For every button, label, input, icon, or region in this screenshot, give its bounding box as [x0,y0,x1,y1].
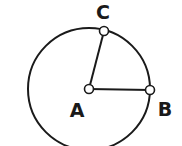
point-b-marker [146,86,155,95]
point-a-marker [85,85,94,94]
radius-ac [89,31,104,89]
label-a: A [70,99,85,121]
radius-ab [89,89,150,90]
point-c-marker [100,27,109,36]
label-b: B [158,98,172,120]
label-c: C [96,1,110,23]
diagram-canvas: A B C [0,0,182,146]
geometry-diagram: A B C [0,0,182,146]
